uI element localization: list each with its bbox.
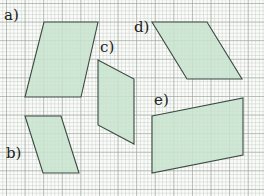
parallelograms-drawing: [0, 0, 264, 196]
label-d: d): [134, 20, 149, 35]
label-b: b): [6, 146, 21, 161]
label-c: c): [100, 40, 114, 55]
label-a: a): [4, 8, 19, 23]
parallelogram-d: [152, 22, 242, 79]
parallelogram-b: [25, 116, 79, 173]
parallelogram-a: [25, 22, 98, 97]
parallelogram-c: [98, 60, 134, 144]
parallelogram-e: [152, 98, 243, 173]
label-e: e): [154, 93, 169, 108]
grid-paper-canvas: a) b) c) d) e): [0, 0, 264, 196]
